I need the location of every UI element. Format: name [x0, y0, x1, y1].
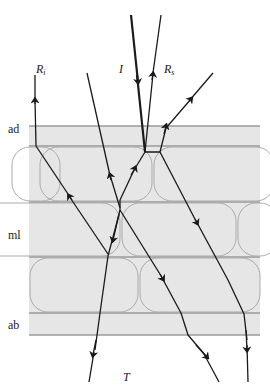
label-specular-reflection: Rs [164, 62, 174, 77]
label-layer-ml: ml [8, 228, 21, 243]
label-layer-ad: ad [8, 122, 19, 137]
tissue-band [29, 126, 260, 335]
label-transmitted: T [123, 370, 130, 385]
label-layer-ab: ab [8, 318, 19, 333]
leaf-light-diagram [0, 0, 270, 391]
label-internal-reflection: Ri [36, 62, 46, 77]
label-incident: I [119, 62, 123, 77]
